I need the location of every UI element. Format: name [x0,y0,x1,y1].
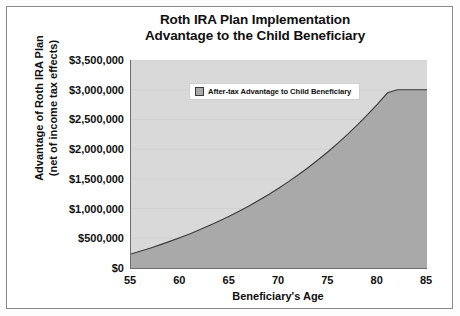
legend-swatch-icon [195,87,204,96]
y-axis-tick-label: $1,000,000 [38,203,124,215]
x-axis-tick-label: 60 [173,274,185,286]
x-axis-tick-label: 75 [321,274,333,286]
x-axis-tick-labels: 55606570758085 [130,274,426,288]
y-axis-tick-label: $500,000 [38,232,124,244]
x-axis-tick-label: 65 [223,274,235,286]
y-axis-tick-label: $0 [38,262,124,274]
x-axis-title: Beneficiary's Age [130,290,426,302]
y-axis-tick-labels: $0$500,000$1,000,000$1,500,000$2,000,000… [38,0,124,316]
y-axis-tick-label: $2,000,000 [38,143,124,155]
legend-label-after-tax-advantage: After-tax Advantage to Child Beneficiary [208,87,351,96]
y-axis-tick-label: $1,500,000 [38,173,124,185]
chart-title-line-1: Roth IRA Plan Implementation [70,12,440,28]
chart-title-line-2: Advantage to the Child Beneficiary [70,28,440,44]
chart-legend: After-tax Advantage to Child Beneficiary [189,83,360,100]
chart-title: Roth IRA Plan Implementation Advantage t… [70,12,440,44]
x-axis-tick-label: 80 [371,274,383,286]
y-axis-tick-label: $3,000,000 [38,84,124,96]
chart-figure: Roth IRA Plan Implementation Advantage t… [0,0,460,316]
y-axis-tick-label: $2,500,000 [38,113,124,125]
y-axis-tick-label: $3,500,000 [38,54,124,66]
x-axis-tick-label: 55 [124,274,136,286]
x-axis-tick-label: 70 [272,274,284,286]
x-axis-tick-label: 85 [420,274,432,286]
